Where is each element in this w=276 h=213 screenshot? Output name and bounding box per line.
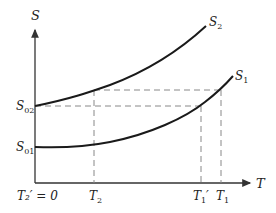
y-axis-label: S	[31, 8, 40, 23]
guide-lines	[35, 90, 221, 183]
entropy-temperature-diagram: S T S02 S01 T₂′ = 0 T2 T1′ T1 S2 S1	[0, 0, 276, 213]
tick-t2prime: T₂′ = 0	[17, 189, 58, 203]
tick-t1: T1	[216, 189, 229, 205]
label-s2: S2	[209, 15, 222, 31]
x-axis-label: T	[256, 176, 266, 191]
curve-s1	[35, 76, 233, 147]
tick-t2: T2	[89, 189, 102, 205]
tick-s02: S02	[16, 99, 34, 115]
label-s1: S1	[235, 69, 248, 85]
tick-t1prime: T1′	[193, 189, 209, 205]
tick-s01: S01	[16, 140, 34, 156]
curve-s2	[35, 26, 206, 106]
